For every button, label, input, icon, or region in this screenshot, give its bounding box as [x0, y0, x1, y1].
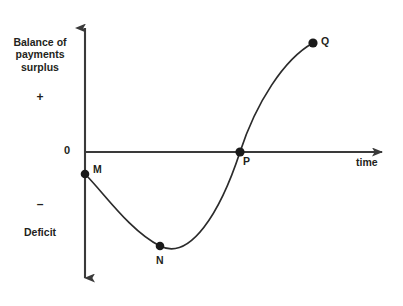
point-label-q: Q: [321, 35, 329, 47]
balance-of-payments-j-curve-figure: Balance of payments surplus + – Deficit …: [0, 0, 403, 306]
positive-sign-label: +: [4, 90, 76, 104]
j-curve-path: [85, 43, 313, 249]
x-axis-label: time: [356, 156, 378, 168]
origin-label: 0: [64, 144, 70, 157]
point-label-p: P: [243, 155, 250, 167]
deficit-region-label: Deficit: [4, 226, 76, 238]
y-axis-label: Balance of payments surplus: [4, 36, 76, 73]
point-label-m: M: [93, 163, 102, 175]
point-label-n: N: [156, 254, 164, 266]
data-point-n: [156, 242, 165, 251]
negative-sign-label: –: [4, 197, 76, 211]
data-point-m: [81, 170, 90, 179]
data-point-q: [308, 38, 317, 47]
